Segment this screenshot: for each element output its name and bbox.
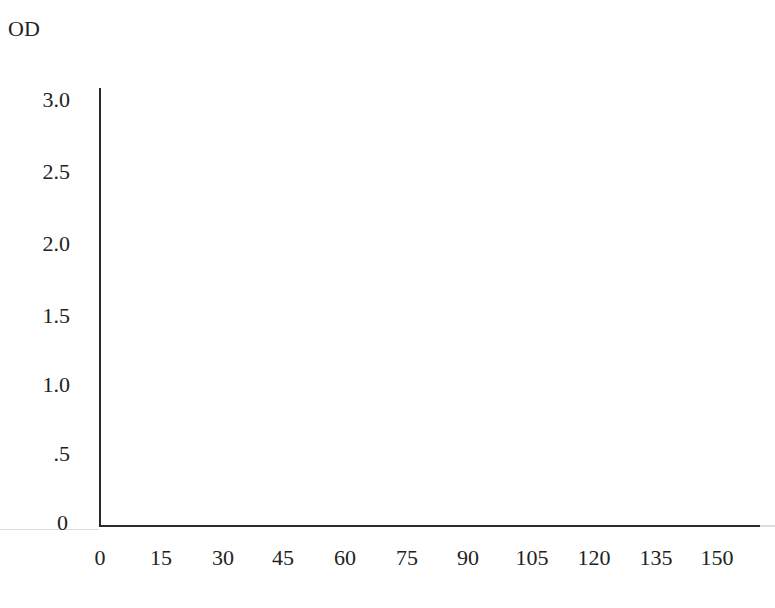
- x-tick-label: 150: [701, 545, 734, 571]
- x-tick-label: 15: [150, 545, 172, 571]
- y-tick-label: 2.5: [10, 159, 70, 185]
- y-tick-label: 2.0: [10, 231, 70, 257]
- y-axis-line: [99, 88, 101, 527]
- y-tick-label: 1.5: [10, 303, 70, 329]
- x-tick-label: 0: [95, 545, 106, 571]
- y-tick-label: 1.0: [10, 372, 70, 398]
- x-tick-label: 75: [396, 545, 418, 571]
- y-tick-label: 0: [0, 510, 68, 536]
- x-tick-label: 90: [457, 545, 479, 571]
- y-axis-label: OD: [8, 16, 40, 42]
- x-tick-label: 45: [272, 545, 294, 571]
- x-tick-label: 60: [334, 545, 356, 571]
- x-tick-label: 30: [212, 545, 234, 571]
- x-axis-line: [99, 525, 760, 527]
- x-tick-label: 120: [578, 545, 611, 571]
- y-tick-label: .5: [10, 441, 70, 467]
- faint-axis-extension: [760, 525, 775, 527]
- y-tick-label: 3.0: [10, 87, 70, 113]
- x-tick-label: 105: [516, 545, 549, 571]
- x-tick-label: 135: [640, 545, 673, 571]
